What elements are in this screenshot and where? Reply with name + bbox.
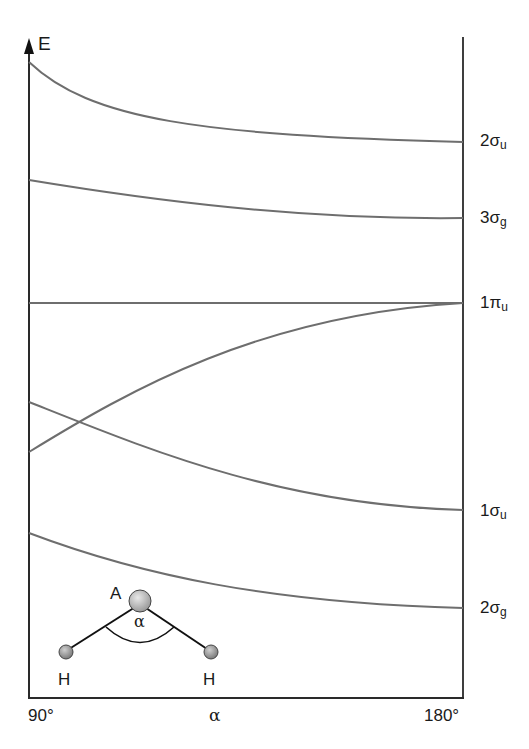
y-axis-label: E [38,33,51,55]
walsh-diagram [0,0,529,749]
atom-label-h-right: H [203,670,215,690]
atom-label-a: A [110,584,121,604]
curve-1sigma-u [29,402,463,510]
curve-2sigma-g [29,533,463,608]
label-1sigma-u: 1σu [480,501,507,521]
atom-label-h-left: H [58,670,70,690]
x-axis-label: α [209,705,220,725]
x-max-label: 180° [424,706,459,726]
curve-2sigma-u [29,62,463,142]
atom-a [129,590,151,612]
label-1pi-u: 1πu [480,293,508,313]
atom-h-right [204,645,218,659]
atom-h-left [59,645,73,659]
y-axis-arrow-icon [24,38,34,54]
label-2sigma-g: 2σg [480,598,507,618]
label-3sigma-g: 3σg [480,208,507,228]
x-min-label: 90° [28,706,54,726]
curve-1pi-u-rising [29,303,463,452]
angle-label: α [134,612,145,631]
label-2sigma-u: 2σu [480,131,507,151]
curve-3sigma-g [29,180,463,218]
